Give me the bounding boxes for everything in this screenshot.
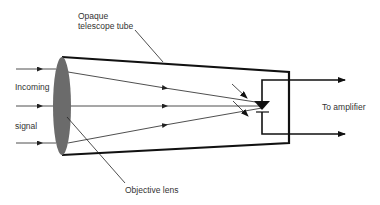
signal-label: signal — [15, 121, 37, 131]
amplifier-label: To amplifier — [322, 102, 365, 112]
incoming-rays — [16, 69, 56, 143]
photodiode-icon — [254, 101, 270, 112]
objective-lens — [53, 57, 71, 155]
tube-label-line2: telescope tube — [78, 21, 133, 31]
converging-rays — [68, 72, 262, 143]
lens-label: Objective lens — [125, 185, 178, 195]
incoming-label: Incoming — [15, 82, 50, 92]
tube-label-line1: Opaque — [78, 11, 108, 21]
label-leaders — [67, 30, 163, 183]
